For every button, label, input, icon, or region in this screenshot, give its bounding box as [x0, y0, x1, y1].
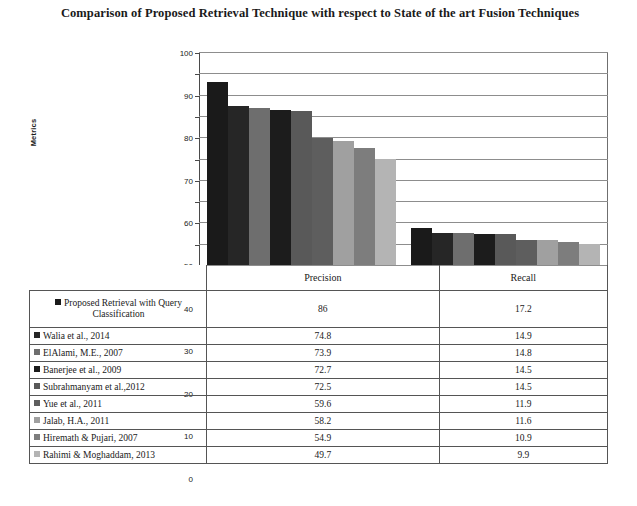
y-axis-tick-label: 0	[189, 475, 193, 484]
cell-recall: 11.6	[439, 413, 607, 430]
legend-swatch-icon	[34, 400, 40, 406]
plot-area: 0102030405060708090100	[199, 52, 608, 265]
legend-entry: Yue et al., 2011	[30, 396, 207, 413]
legend-entry-label: Walia et al., 2014	[43, 331, 110, 341]
legend-entry: Hiremath & Pujari, 2007	[30, 430, 207, 447]
cell-precision: 74.8	[207, 328, 440, 345]
cell-recall: 10.9	[439, 430, 607, 447]
data-table: PrecisionRecallProposed Retrieval with Q…	[29, 265, 608, 464]
legend-entry-label: Banerjee et al., 2009	[43, 365, 121, 375]
legend-entry-label: Rahimi & Moghaddam, 2013	[43, 450, 155, 460]
y-axis-label: Metrics	[29, 113, 38, 153]
y-axis-tick-label: 90	[184, 91, 193, 100]
bar	[354, 148, 375, 265]
bar	[228, 106, 249, 265]
table-row: Proposed Retrieval with Query Classifica…	[30, 291, 608, 328]
legend-entry: Rahimi & Moghaddam, 2013	[30, 447, 207, 464]
bar	[291, 111, 312, 265]
legend-entry: Walia et al., 2014	[30, 328, 207, 345]
table-row: Yue et al., 201159.611.9	[30, 396, 608, 413]
legend-entry: Jalab, H.A., 2011	[30, 413, 207, 430]
legend-entry-label: Yue et al., 2011	[43, 399, 102, 409]
cell-recall: 17.2	[439, 291, 607, 328]
bar	[474, 234, 495, 265]
bar	[432, 233, 453, 265]
legend-swatch-icon	[55, 299, 61, 305]
cell-precision: 49.7	[207, 447, 440, 464]
cell-precision: 86	[207, 291, 440, 328]
table-header-legend-cell	[30, 265, 207, 291]
table-row: Hiremath & Pujari, 200754.910.9	[30, 430, 608, 447]
cell-recall: 9.9	[439, 447, 607, 464]
legend-entry-label: ElAlami, M.E., 2007	[43, 348, 123, 358]
bar	[411, 228, 432, 265]
bar	[537, 240, 558, 265]
table-row: Jalab, H.A., 201158.211.6	[30, 413, 608, 430]
legend-swatch-icon	[34, 383, 40, 389]
legend-entry: Banerjee et al., 2009	[30, 362, 207, 379]
legend-swatch-icon	[34, 434, 40, 440]
bar	[207, 82, 228, 265]
bar	[375, 159, 396, 265]
legend-entry-label: Proposed Retrieval with Query Classifica…	[64, 298, 182, 319]
bar	[270, 110, 291, 265]
bar	[516, 240, 537, 265]
cell-recall: 14.5	[439, 362, 607, 379]
table-row: Walia et al., 201474.814.9	[30, 328, 608, 345]
bar	[453, 233, 474, 265]
table-row: Rahimi & Moghaddam, 201349.79.9	[30, 447, 608, 464]
cell-precision: 54.9	[207, 430, 440, 447]
column-header-precision: Precision	[207, 265, 440, 291]
cell-precision: 72.5	[207, 379, 440, 396]
cell-precision: 59.6	[207, 396, 440, 413]
bar	[312, 138, 333, 265]
y-axis-tick-label: 70	[184, 176, 193, 185]
cell-recall: 14.8	[439, 345, 607, 362]
chart-title: Comparison of Proposed Retrieval Techniq…	[60, 5, 580, 21]
legend-entry: ElAlami, M.E., 2007	[30, 345, 207, 362]
table-header-row: PrecisionRecall	[30, 265, 608, 291]
legend-entry-label: Jalab, H.A., 2011	[43, 416, 109, 426]
table-row: Subrahmanyam et al.,201272.514.5	[30, 379, 608, 396]
bar	[249, 108, 270, 265]
y-axis-tick-label: 100	[180, 49, 193, 58]
y-axis-tick-label: 80	[184, 134, 193, 143]
cell-recall: 14.5	[439, 379, 607, 396]
cell-precision: 72.7	[207, 362, 440, 379]
legend-swatch-icon	[34, 417, 40, 423]
legend-swatch-icon	[34, 349, 40, 355]
legend-entry-label: Hiremath & Pujari, 2007	[43, 433, 137, 443]
cell-precision: 73.9	[207, 345, 440, 362]
legend-swatch-icon	[34, 332, 40, 338]
table-row: Banerjee et al., 200972.714.5	[30, 362, 608, 379]
bar-group-precision	[199, 52, 404, 265]
cell-recall: 14.9	[439, 328, 607, 345]
bar	[579, 244, 600, 265]
bar-groups	[199, 52, 608, 265]
column-header-recall: Recall	[439, 265, 607, 291]
legend-entry: Proposed Retrieval with Query Classifica…	[30, 291, 207, 328]
bar	[495, 234, 516, 265]
chart-figure: Comparison of Proposed Retrieval Techniq…	[0, 0, 637, 506]
y-axis-tick-label: 60	[184, 219, 193, 228]
bar-group-recall	[404, 52, 609, 265]
cell-recall: 11.9	[439, 396, 607, 413]
legend-entry: Subrahmanyam et al.,2012	[30, 379, 207, 396]
legend-swatch-icon	[34, 451, 40, 457]
table-row: ElAlami, M.E., 200773.914.8	[30, 345, 608, 362]
legend-swatch-icon	[34, 366, 40, 372]
cell-precision: 58.2	[207, 413, 440, 430]
bar	[558, 242, 579, 265]
bar	[333, 141, 354, 265]
legend-entry-label: Subrahmanyam et al.,2012	[43, 382, 145, 392]
